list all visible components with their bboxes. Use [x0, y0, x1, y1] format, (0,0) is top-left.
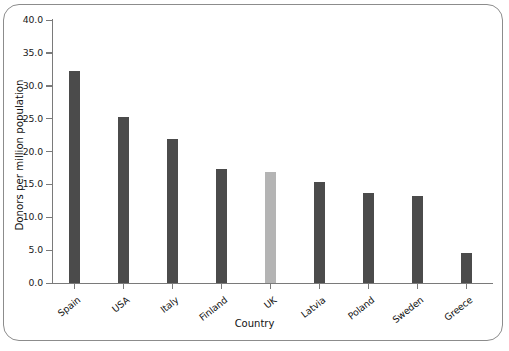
- y-axis-title: Donors per million population: [10, 40, 28, 270]
- y-axis-tick: [46, 283, 52, 284]
- y-axis-tick: [46, 151, 52, 152]
- bar-usa: [118, 117, 129, 283]
- bar-poland: [363, 193, 374, 283]
- x-axis-tick: [417, 284, 418, 289]
- x-axis-tick: [368, 284, 369, 289]
- x-axis-tick: [74, 284, 75, 289]
- x-axis-tick: [270, 284, 271, 289]
- y-axis-tick: [46, 52, 52, 53]
- y-axis-tick: [46, 20, 52, 21]
- x-axis-title: Country: [0, 318, 509, 329]
- bar-latvia: [314, 182, 325, 283]
- y-axis-tick: [46, 217, 52, 218]
- y-axis-tick: [46, 85, 52, 86]
- x-axis-tick: [466, 284, 467, 289]
- bar-sweden: [412, 196, 423, 283]
- x-axis-line: [52, 283, 493, 284]
- y-axis-tick: [46, 250, 52, 251]
- y-axis-line: [52, 19, 53, 284]
- bar-chart-figure: 0.05.010.015.020.025.030.035.040.0 Spain…: [0, 0, 509, 351]
- y-axis-tick: [46, 118, 52, 119]
- bar-italy: [167, 139, 178, 283]
- bar-spain: [69, 71, 80, 283]
- bar-finland: [216, 169, 227, 283]
- bar-uk: [265, 172, 276, 283]
- x-axis-tick: [319, 284, 320, 289]
- bar-greece: [461, 253, 472, 283]
- x-axis-tick: [123, 284, 124, 289]
- y-axis-tick: [46, 184, 52, 185]
- y-axis-tick-label: 40.0: [10, 14, 43, 25]
- x-axis-tick: [221, 284, 222, 289]
- x-axis-tick: [172, 284, 173, 289]
- y-axis-tick-label: 0.0: [10, 277, 43, 288]
